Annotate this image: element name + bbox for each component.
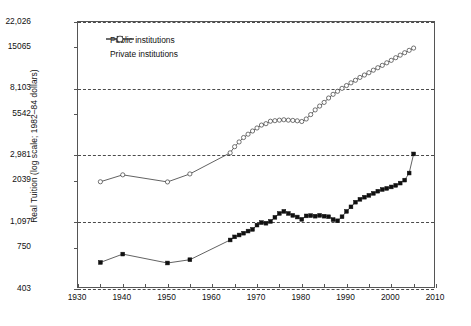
data-point (233, 145, 237, 149)
x-tick-label: 2010 (415, 292, 455, 302)
data-point (367, 193, 371, 197)
data-point (165, 180, 169, 184)
data-point (255, 126, 259, 130)
data-point (335, 89, 339, 93)
data-point (166, 261, 170, 265)
data-point (362, 73, 366, 77)
data-point (371, 68, 375, 72)
y-tick-label: 1,097 (10, 216, 31, 226)
data-point (309, 112, 313, 116)
data-point (358, 197, 362, 201)
data-point (228, 238, 232, 242)
data-point (349, 205, 353, 209)
data-point (259, 123, 263, 127)
data-point (295, 215, 299, 219)
data-point (331, 218, 335, 222)
x-tick-label: 1990 (326, 292, 366, 302)
data-point (340, 215, 344, 219)
data-point (376, 189, 380, 193)
data-point (241, 135, 245, 139)
data-point (309, 214, 313, 218)
data-point (367, 71, 371, 75)
data-point (389, 58, 393, 62)
x-tick-label: 1970 (236, 292, 276, 302)
data-point (273, 119, 277, 123)
data-point (327, 96, 331, 100)
data-point (268, 119, 272, 123)
data-point (371, 191, 375, 195)
data-point (273, 215, 277, 219)
y-tick-label: 8,103 (10, 82, 31, 92)
data-point (345, 209, 349, 213)
data-point (304, 214, 308, 218)
series-canvas (78, 22, 436, 289)
data-point (318, 213, 322, 217)
x-tick-label: 2000 (370, 292, 410, 302)
data-point (380, 63, 384, 67)
data-point (412, 152, 416, 156)
data-point (304, 117, 308, 121)
legend-label-private: Private institutions (110, 49, 178, 59)
x-tick-label: 1940 (102, 292, 142, 302)
x-tick-label: 1960 (191, 292, 231, 302)
data-point (228, 151, 232, 155)
data-point (282, 118, 286, 122)
data-point (322, 100, 326, 104)
chart-figure: Real Tuition (log scale; 1982–84 dollars… (0, 0, 471, 326)
x-tick-label: 1950 (147, 292, 187, 302)
series-line-public (100, 154, 413, 263)
y-tick-label: 2039 (12, 174, 31, 184)
data-point (407, 171, 411, 175)
data-point (121, 173, 125, 177)
data-point (188, 258, 192, 262)
data-point (331, 92, 335, 96)
data-point (291, 118, 295, 122)
x-tick-label: 1930 (57, 292, 97, 302)
data-point (121, 252, 125, 256)
data-point (394, 56, 398, 60)
data-point (385, 61, 389, 65)
data-point (376, 66, 380, 70)
y-tick-label: 2,981 (10, 149, 31, 159)
data-point (255, 223, 259, 227)
data-point (246, 229, 250, 233)
data-point (295, 119, 299, 123)
plot-area: Public institutions Private institutions (77, 21, 435, 288)
y-tick-label: 15065 (8, 41, 31, 51)
data-point (264, 221, 268, 225)
data-point (250, 129, 254, 133)
y-tick-label: 403 (17, 283, 31, 293)
data-point (353, 78, 357, 82)
data-point (398, 181, 402, 185)
chart-legend: Public institutions Private institutions (105, 33, 178, 61)
data-point (233, 235, 237, 239)
data-point (260, 221, 264, 225)
data-point (412, 46, 416, 50)
data-point (336, 219, 340, 223)
data-point (237, 233, 241, 237)
data-point (407, 48, 411, 52)
data-point (380, 188, 384, 192)
data-point (277, 212, 281, 216)
data-point (300, 217, 304, 221)
gridline (78, 289, 434, 290)
data-point (291, 213, 295, 217)
data-point (354, 200, 358, 204)
x-tick-label: 1980 (281, 292, 321, 302)
data-point (277, 118, 281, 122)
data-point (363, 195, 367, 199)
data-point (300, 119, 304, 123)
data-point (98, 180, 102, 184)
series-line-private (100, 48, 413, 182)
data-point (385, 186, 389, 190)
legend-marker-open-circle-icon (105, 33, 135, 45)
data-point (322, 214, 326, 218)
data-point (340, 86, 344, 90)
data-point (398, 53, 402, 57)
data-point (188, 172, 192, 176)
data-point (327, 215, 331, 219)
data-point (237, 140, 241, 144)
x-tick (436, 284, 437, 288)
data-point (313, 108, 317, 112)
y-tick-label: 5542 (12, 108, 31, 118)
